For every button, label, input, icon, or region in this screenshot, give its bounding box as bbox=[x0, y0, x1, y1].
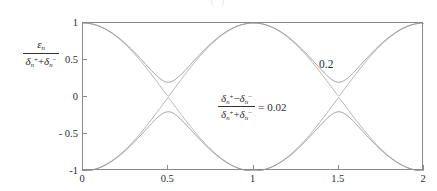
x-tick-label-1.5: 1.5 bbox=[331, 173, 344, 184]
y-tick-label-05: 0.5 bbox=[40, 54, 78, 65]
gap-ratio-fraction: δn+−δn− δn++δn− bbox=[218, 92, 255, 121]
y-axis-label-numerator: εn bbox=[23, 38, 60, 53]
y-tick--1 bbox=[82, 170, 87, 171]
x-tick-0.5 bbox=[167, 165, 168, 170]
x-tick-label-1: 1 bbox=[250, 173, 255, 184]
gap-ratio-numerator: δn+−δn− bbox=[218, 92, 255, 106]
gap-ratio-annotation: δn+−δn− δn++δn− = 0.02 bbox=[218, 92, 286, 121]
y-tick-label--1: -1 bbox=[40, 165, 78, 176]
x-tick-2 bbox=[423, 165, 424, 170]
gap-ratio-denominator: δn++δn− bbox=[218, 106, 255, 121]
x-tick-label-0.5: 0.5 bbox=[161, 173, 174, 184]
curve-gap-0-2-upper bbox=[83, 23, 424, 82]
x-tick-1 bbox=[253, 165, 254, 170]
curve-gap-0-02-upper bbox=[83, 23, 424, 96]
den-delta-minus-superscript: − bbox=[248, 109, 252, 116]
x-tick-label-0: 0 bbox=[79, 173, 84, 184]
num-delta-minus-superscript: − bbox=[248, 93, 252, 100]
y-tick-05 bbox=[82, 59, 87, 60]
x-tick-1.5 bbox=[338, 165, 339, 170]
y-tick-label-1: 1 bbox=[40, 17, 78, 28]
gap-ratio-value: 0.02 bbox=[267, 101, 286, 113]
y-tick-0 bbox=[82, 96, 87, 97]
y-tick-label--05: - 0.5 bbox=[40, 128, 78, 139]
equals-sign: = bbox=[258, 101, 264, 113]
y-tick--05 bbox=[82, 133, 87, 134]
gap-02-annotation: 0.2 bbox=[319, 58, 333, 70]
y-tick-label-0: 0 bbox=[40, 91, 78, 102]
y-tick-1 bbox=[82, 22, 87, 23]
caption-remnant: ( ) bbox=[0, 0, 437, 6]
figure-root: ( ) εn δn++δn− 00.511.5210.50- 0.5-1 δn+… bbox=[0, 0, 437, 191]
x-tick-label-2: 2 bbox=[420, 173, 425, 184]
epsilon-subscript: n bbox=[41, 44, 44, 51]
